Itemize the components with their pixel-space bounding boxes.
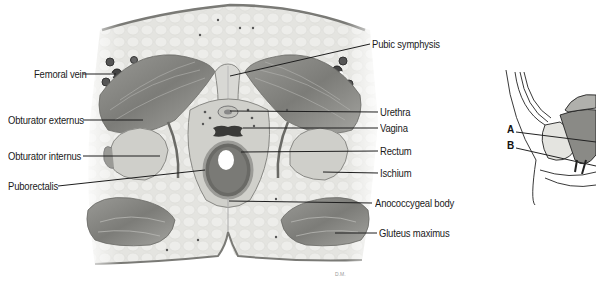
label-obturator-externus: Obturator externus <box>8 114 84 126</box>
label-femoral-vein: Femoral vein <box>34 68 87 80</box>
label-gluteus-maximus: Gluteus maximus <box>379 227 450 239</box>
inset-sagittal-diagram <box>506 70 596 205</box>
inset-label-a: A <box>507 124 514 135</box>
label-puborectalis: Puborectalis <box>8 180 58 192</box>
label-anococcygeal-body: Anococcygeal body <box>375 197 454 209</box>
inset-label-b: B <box>507 140 514 151</box>
label-obturator-internus: Obturator internus <box>8 150 81 162</box>
label-urethra: Urethra <box>380 106 410 118</box>
label-pubic-symphysis: Pubic symphysis <box>372 38 440 50</box>
pubic-symphysis <box>215 64 240 100</box>
label-rectum: Rectum <box>380 145 412 157</box>
artist-signature: D.M. <box>335 271 346 277</box>
label-ischium: Ischium <box>380 167 411 179</box>
label-vagina: Vagina <box>380 122 408 134</box>
anatomy-figure: D.M. Femoral vein Obturator externus Obt… <box>0 0 596 284</box>
